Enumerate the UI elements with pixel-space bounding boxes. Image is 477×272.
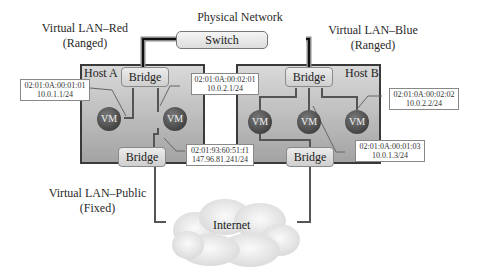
- vlan-public-name: Virtual LAN–Public: [40, 186, 155, 201]
- host-b-top-bridge: Bridge: [285, 67, 333, 87]
- vlan-public-mode: (Fixed): [40, 201, 155, 216]
- mac-address: 02:01:0A:00:02:01: [194, 75, 256, 84]
- vlan-red-mode: (Ranged): [30, 36, 140, 51]
- ip-address: 10.0.2.2/24: [392, 99, 456, 108]
- mac-address: 02:01:0A:00:01:01: [23, 81, 87, 90]
- mac-address: 02:01:0A:00:01:03: [358, 142, 422, 151]
- ip-address: 10.0.2.1/24: [194, 84, 256, 93]
- address-label-vm-a2: 02:01:0A:00:02:01 10.0.2.1/24: [191, 73, 259, 95]
- host-b-bottom-bridge: Bridge: [286, 147, 334, 167]
- mac-address: 02:01:0A:00:02:02: [392, 90, 456, 99]
- host-a-bottom-bridge: Bridge: [118, 147, 166, 167]
- address-label-vm-a1: 02:01:0A:00:01:01 10.0.1.1/24: [20, 79, 90, 101]
- address-label-public: 02:01:93:60:51:f1 147.96.81.241/24: [186, 144, 254, 166]
- host-b-vm-2: VM: [297, 110, 321, 134]
- mac-address: 02:01:93:60:51:f1: [189, 146, 251, 155]
- vlan-public-caption: Virtual LAN–Public (Fixed): [40, 186, 155, 216]
- ip-address: 10.0.1.1/24: [23, 90, 87, 99]
- host-a-vm-1: VM: [97, 107, 121, 131]
- host-a-vm-2: VM: [163, 107, 187, 131]
- vlan-blue-caption: Virtual LAN–Blue (Ranged): [318, 23, 428, 53]
- physical-network-title: Physical Network: [180, 10, 300, 25]
- switch-node: Switch: [176, 31, 268, 49]
- vlan-blue-name: Virtual LAN–Blue: [318, 23, 428, 38]
- vlan-red-name: Virtual LAN–Red: [30, 21, 140, 36]
- vlan-red-caption: Virtual LAN–Red (Ranged): [30, 21, 140, 51]
- ip-address: 147.96.81.241/24: [189, 155, 251, 164]
- address-label-vm-b3: 02:01:0A:00:02:02 10.0.2.2/24: [389, 88, 459, 110]
- vlan-blue-mode: (Ranged): [318, 38, 428, 53]
- ip-address: 10.0.1.3/24: [358, 151, 422, 160]
- address-label-vm-b2: 02:01:0A:00:01:03 10.0.1.3/24: [355, 140, 425, 162]
- host-a-top-bridge: Bridge: [121, 67, 169, 87]
- host-b-vm-3: VM: [345, 110, 369, 134]
- host-b-vm-1: VM: [248, 110, 272, 134]
